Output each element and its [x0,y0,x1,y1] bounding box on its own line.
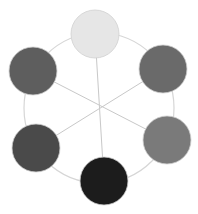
color-node-bottom-left [12,124,60,172]
color-node-bottom-right [143,116,191,164]
color-node-top-left [9,47,57,95]
color-node-top [71,10,119,58]
color-node-bottom [80,157,128,205]
color-node-top-right [139,45,187,93]
color-wheel-diagram [0,0,198,214]
